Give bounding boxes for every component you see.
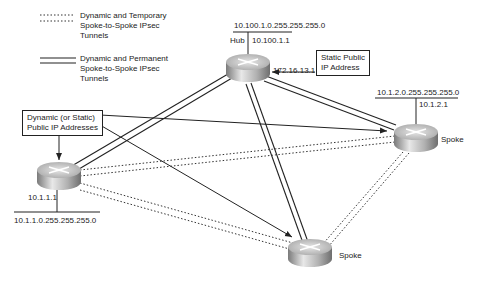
hub-ip-label: 10.100.1.1 [252,36,290,46]
legend-dotted-line2: Spoke-to-Spoke IPsec [80,21,167,31]
legend-double-label: Dynamic and Permanent Spoke-to-Spoke IPs… [80,54,168,84]
tunnel-hub-right [264,76,396,130]
router-hub-icon [226,54,270,82]
legend-dotted-line3: Tunnels [80,31,167,41]
legend-double-line1: Dynamic and Permanent [80,54,168,64]
spoke-right-ip-label: 10.1.2.1 [419,100,448,110]
spoke-right-label: Spoke [441,135,464,145]
spoke-left-network-label: 10.1.1.0.255.255.255.0 [14,216,96,226]
legend-double-line2: Spoke-to-Spoke IPsec [80,64,168,74]
spoke-bottom-label: Spoke [339,251,362,261]
spoke-left-callout-line2: Public IP Addresses [27,123,98,133]
hub-network-label: 10.100.1.0.255.255.255.0 [234,21,325,31]
legend-dotted-label: Dynamic and Temporary Spoke-to-Spoke IPs… [80,11,167,41]
tunnel-left-bottom-dynamic [80,183,293,250]
router-spoke-bottom-icon [288,239,332,267]
legend-double-line3: Tunnels [80,74,168,84]
router-spoke-right-icon [394,124,438,152]
hub-label: Hub [230,36,245,46]
spoke-right-network-label: 10.1.2.0.255.255.255.0 [377,88,459,98]
hub-callout-line2: IP Address [321,63,365,73]
spoke-left-callout-box: Dynamic (or Static) Public IP Addresses [22,110,103,136]
legend-dotted-line1: Dynamic and Temporary [80,11,167,21]
callout-arrow-left-bottom [100,125,292,237]
legend-dotted-line [40,15,75,21]
spoke-left-callout-line1: Dynamic (or Static) [27,113,98,123]
router-spoke-left-icon [37,162,81,190]
tunnel-left-right-dynamic [80,136,395,176]
legend-double-line [40,58,76,63]
tunnel-hub-bottom [246,83,308,243]
hub-callout-line1: Static Public [321,53,365,63]
callout-arrow-left-right [100,115,387,131]
hub-callout-box: Static Public IP Address [316,50,370,76]
hub-public-ip-label: 172.16.13.1 [273,66,315,76]
spoke-left-ip-label: 10.1.1.1 [28,193,57,203]
dmvpn-diagram: Dynamic and Temporary Spoke-to-Spoke IPs… [0,0,478,284]
tunnel-right-bottom-dynamic [322,152,409,247]
